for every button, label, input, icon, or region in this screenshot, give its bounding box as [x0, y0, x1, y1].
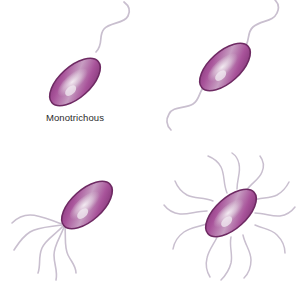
monotrichous-illustration: [0, 0, 150, 152]
amphitrichous-illustration: [151, 0, 301, 152]
flagellum: [96, 2, 129, 52]
peritrichous-illustration: [151, 153, 301, 305]
panel-amphitrichous: Amphitrichous: [151, 0, 301, 152]
flagellum-pole-2: [167, 84, 207, 130]
cell-body: [42, 50, 109, 115]
panel-lophotrichous: Lophotrichous: [0, 153, 150, 305]
panel-peritrichous: Peritrichous: [151, 153, 301, 305]
lophotrichous-illustration: [0, 153, 150, 305]
caption-monotrichous: Monotrichous: [0, 112, 150, 123]
panel-monotrichous: Monotrichous: [0, 0, 150, 152]
flagellum-pole-1: [243, 0, 278, 50]
bacterial-flagella-diagram: Monotrichous: [0, 0, 301, 305]
